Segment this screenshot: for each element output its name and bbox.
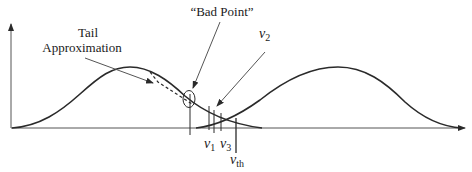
v1-label: v1 [204, 136, 215, 153]
v3-label: v3 [220, 136, 231, 153]
vth-label-sub: th [236, 158, 244, 169]
v2-pointer-arrow [217, 52, 265, 106]
tail-approximation-dashed-line [150, 72, 192, 104]
bad-point-pointer-arrow [193, 22, 220, 88]
v2-label: v2 [259, 26, 270, 43]
v1-label-sub: 1 [210, 142, 215, 153]
vth-label: vth [230, 152, 244, 169]
tail-approximation-label-line1: Tail [78, 25, 98, 40]
bad-point-label: “Bad Point” [190, 4, 253, 19]
diagram-canvas: Tail Approximation “Bad Point” v2 v1 v3 … [0, 0, 472, 172]
v2-label-sub: 2 [265, 32, 270, 43]
tail-approximation-label-line2: Approximation [42, 40, 122, 55]
tail-approximation-pointer-arrow [85, 58, 153, 83]
